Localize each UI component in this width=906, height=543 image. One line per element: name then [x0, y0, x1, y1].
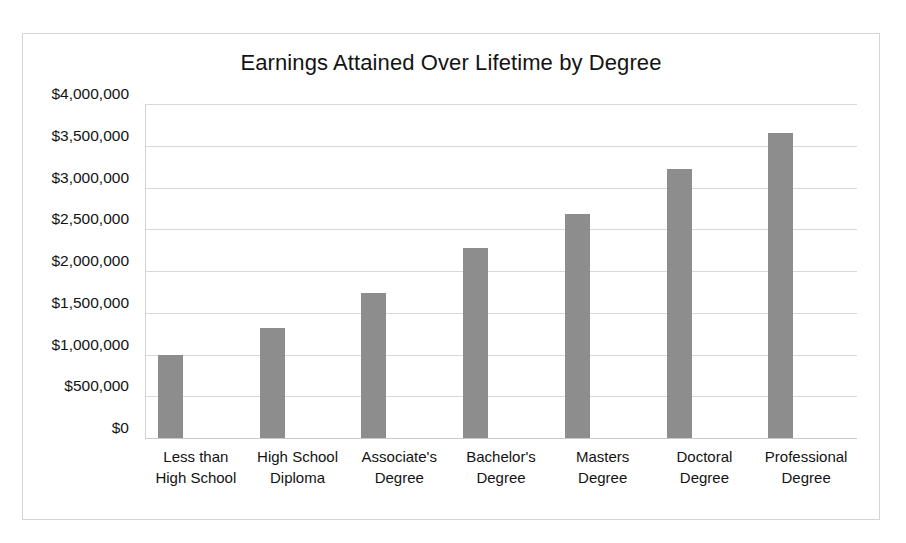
x-axis-category-label: DoctoralDegree — [654, 446, 756, 488]
x-axis-category-label-line: Degree — [450, 467, 552, 488]
x-axis-category-labels: Less thanHigh SchoolHigh SchoolDiplomaAs… — [145, 446, 857, 506]
bar[interactable] — [768, 133, 793, 438]
axis-baseline — [145, 438, 857, 439]
x-axis-category-label-line: Degree — [348, 467, 450, 488]
y-axis-tick-label: $1,000,000 — [23, 335, 129, 355]
y-axis-tick-label: $2,500,000 — [23, 209, 129, 229]
x-axis-category-label-line: Doctoral — [654, 446, 756, 467]
x-axis-category-label-line: Associate's — [348, 446, 450, 467]
x-axis-category-label: Bachelor'sDegree — [450, 446, 552, 488]
x-axis-category-label: ProfessionalDegree — [755, 446, 857, 488]
y-axis-tick-label: $3,000,000 — [23, 168, 129, 188]
y-axis-tick-label: $500,000 — [23, 376, 129, 396]
y-axis-tick-label: $0 — [23, 418, 129, 438]
y-axis-tick-label: $2,000,000 — [23, 251, 129, 271]
x-axis-category-label: High SchoolDiploma — [247, 446, 349, 488]
x-axis-category-label: Associate'sDegree — [348, 446, 450, 488]
bar[interactable] — [260, 328, 285, 438]
x-axis-category-label-line: Professional — [755, 446, 857, 467]
bar-slot — [348, 104, 450, 438]
x-axis-category-label-line: Diploma — [247, 467, 349, 488]
bar[interactable] — [361, 293, 386, 438]
x-axis-category-label-line: Degree — [552, 467, 654, 488]
chart-container: Earnings Attained Over Lifetime by Degre… — [22, 33, 880, 520]
x-axis-category-label-line: Degree — [755, 467, 857, 488]
x-axis-category-label-line: Less than — [145, 446, 247, 467]
y-axis-tick-label: $3,500,000 — [23, 126, 129, 146]
bar-slot — [145, 104, 247, 438]
y-axis-tick-label: $1,500,000 — [23, 293, 129, 313]
x-axis-category-label-line: Bachelor's — [450, 446, 552, 467]
x-axis-category-label-line: High School — [247, 446, 349, 467]
bar-slot — [654, 104, 756, 438]
x-axis-category-label: MastersDegree — [552, 446, 654, 488]
figure-caption-cropped — [30, 530, 876, 543]
bar[interactable] — [565, 214, 590, 438]
x-axis-category-label: Less thanHigh School — [145, 446, 247, 488]
bar-series — [145, 104, 857, 438]
bar-slot — [247, 104, 349, 438]
bar[interactable] — [463, 248, 488, 438]
bar[interactable] — [667, 169, 692, 438]
x-axis-category-label-line: Masters — [552, 446, 654, 467]
x-axis-category-label-line: Degree — [654, 467, 756, 488]
y-axis-tick-labels: $4,000,000$3,500,000$3,000,000$2,500,000… — [23, 94, 137, 428]
bar-slot — [450, 104, 552, 438]
y-axis-tick-label: $4,000,000 — [23, 84, 129, 104]
bar[interactable] — [158, 355, 183, 438]
x-axis-category-label-line: High School — [145, 467, 247, 488]
plot-area — [145, 104, 857, 438]
bar-slot — [552, 104, 654, 438]
plot-wrapper: $4,000,000$3,500,000$3,000,000$2,500,000… — [23, 34, 879, 519]
bar-slot — [755, 104, 857, 438]
